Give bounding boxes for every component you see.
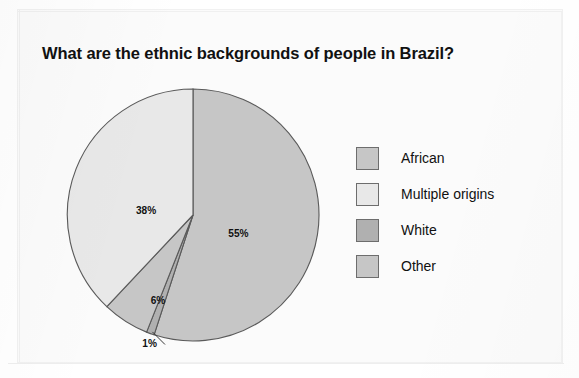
legend-item-white: White [356,212,546,248]
legend-swatch-multiple-origins [356,183,379,206]
legend-label-african: African [401,150,445,166]
legend-label-white: White [401,222,437,238]
legend-item-other: Other [356,248,546,284]
legend-label-other: Other [401,258,436,274]
legend-item-african: African [356,140,546,176]
legend-label-multiple-origins: Multiple origins [401,186,494,202]
legend-swatch-white [356,219,379,242]
legend-swatch-other [356,255,379,278]
chart-title: What are the ethnic backgrounds of peopl… [42,44,454,63]
legend-item-multiple-origins: Multiple origins [356,176,546,212]
chart-legend: African Multiple origins White Other [356,140,546,284]
pie-svg: 55% 38% 6% 1% [60,82,326,348]
pie-label-other: 6% [151,295,166,306]
page-edge-bottom [8,363,564,364]
page-edge-right [561,12,562,362]
pie-label-white: 1% [142,338,157,348]
pie-chart: 55% 38% 6% 1% [60,82,326,348]
pie-label-african: 55% [228,228,248,239]
legend-swatch-african [356,147,379,170]
page-edge-left [19,10,20,362]
page-edge-top [18,11,562,12]
pie-label-multiple-origins: 38% [136,205,156,216]
scanned-page: What are the ethnic backgrounds of peopl… [0,0,579,378]
